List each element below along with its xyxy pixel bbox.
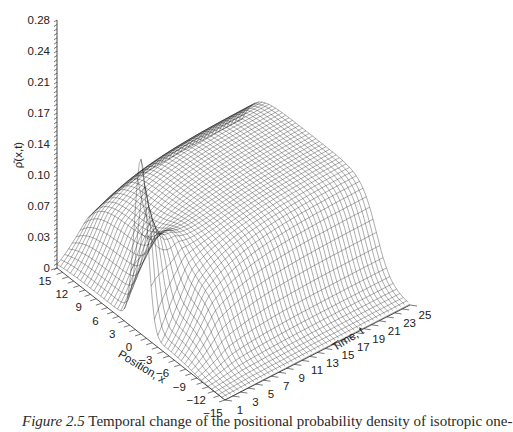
time-axis: 135791113151719212325 [225, 305, 431, 416]
svg-text:11: 11 [311, 364, 323, 376]
svg-text:0.10: 0.10 [28, 169, 50, 181]
svg-text:5: 5 [268, 388, 274, 400]
svg-text:15: 15 [39, 275, 52, 287]
svg-text:0.07: 0.07 [28, 200, 50, 212]
z-axis: 00.030.070.100.140.170.210.240.28 [28, 14, 57, 274]
svg-text:0.24: 0.24 [28, 45, 51, 57]
svg-text:0.21: 0.21 [28, 76, 50, 88]
svg-text:0.03: 0.03 [28, 231, 50, 243]
svg-text:0.14: 0.14 [28, 138, 51, 150]
svg-text:0: 0 [44, 262, 50, 274]
svg-text:−9: −9 [173, 381, 186, 393]
svg-text:15: 15 [342, 349, 355, 361]
svg-text:3: 3 [252, 396, 258, 408]
figure-caption: Figure 2.5 Temporal change of the positi… [22, 413, 452, 430]
svg-text:19: 19 [372, 333, 385, 345]
svg-text:25: 25 [419, 309, 432, 321]
svg-text:7: 7 [283, 380, 289, 392]
svg-text:21: 21 [388, 325, 401, 337]
svg-text:9: 9 [298, 372, 304, 384]
svg-text:−12: −12 [186, 394, 206, 406]
svg-text:12: 12 [55, 288, 68, 300]
figure-number: Figure 2.5 [22, 413, 85, 429]
caption-text: Temporal change of the positional probab… [85, 413, 513, 429]
z-axis-label: ρ̂(x,t) [12, 142, 24, 169]
svg-text:23: 23 [403, 317, 416, 329]
position-axis: 15129630−3−6−9−12−15 [39, 268, 225, 419]
svg-text:0.28: 0.28 [28, 14, 50, 26]
wireframe-surface [57, 102, 410, 400]
svg-text:17: 17 [357, 341, 370, 353]
svg-text:6: 6 [92, 315, 98, 327]
svg-text:0.17: 0.17 [28, 107, 50, 119]
svg-text:13: 13 [326, 357, 339, 369]
svg-text:3: 3 [109, 328, 115, 340]
svg-text:9: 9 [75, 301, 81, 313]
